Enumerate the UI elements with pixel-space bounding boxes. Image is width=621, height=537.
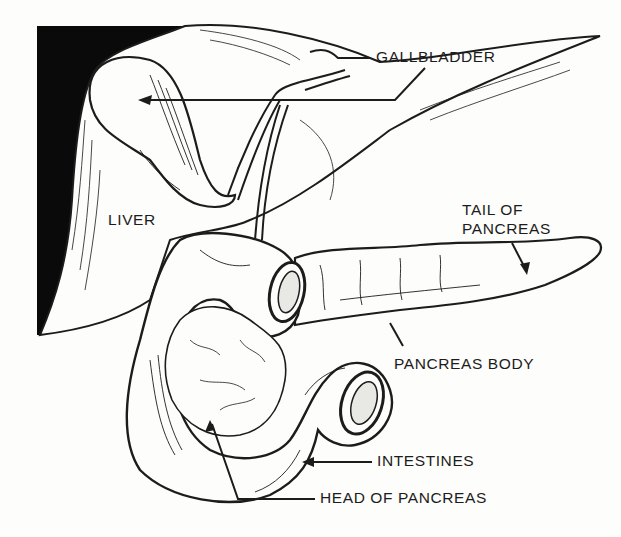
- anatomy-diagram: GALLBLADDER LIVER TAIL OF PANCREAS PANCR…: [0, 0, 621, 537]
- pancreas-body-shape: [295, 237, 601, 325]
- label-tail-of-pancreas-line1: TAIL OF: [462, 200, 523, 219]
- label-pancreas-body: PANCREAS BODY: [394, 354, 534, 373]
- pancreas-body-leader: [390, 323, 403, 346]
- label-liver: LIVER: [108, 210, 156, 229]
- label-intestines: INTESTINES: [377, 451, 474, 470]
- label-gallbladder: GALLBLADDER: [376, 47, 495, 66]
- anatomy-illustration: [0, 0, 621, 537]
- label-head-of-pancreas: HEAD OF PANCREAS: [320, 488, 487, 507]
- label-tail-of-pancreas-line2: PANCREAS: [462, 219, 551, 238]
